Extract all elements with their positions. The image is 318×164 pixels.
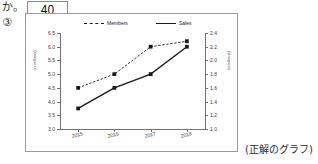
question-prefix-text: か。 xyxy=(2,2,23,14)
data-point-sales xyxy=(185,45,189,49)
item-number-label: ③ xyxy=(2,17,12,29)
series-line-sales xyxy=(78,47,187,109)
data-point-members xyxy=(185,39,189,43)
data-point-sales xyxy=(76,107,80,111)
data-point-sales xyxy=(112,86,116,90)
data-point-sales xyxy=(149,72,153,76)
chart-series-layer xyxy=(26,14,239,153)
data-point-members xyxy=(112,72,116,76)
chart-caption: (正解のグラフ) xyxy=(245,141,313,156)
data-point-members xyxy=(76,86,80,90)
chart-container: Members Sales (in millions) (in billions… xyxy=(25,13,238,152)
data-point-members xyxy=(149,45,153,49)
